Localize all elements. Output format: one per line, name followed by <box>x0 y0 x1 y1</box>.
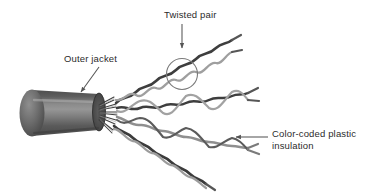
label-twisted-pair: Twisted pair <box>164 9 217 21</box>
twisted-pair-3 <box>117 117 259 154</box>
outer-jacket <box>20 90 106 137</box>
jacket-left-cap <box>20 90 45 137</box>
label-outer-jacket: Outer jacket <box>64 53 117 65</box>
pair-4-tips <box>206 184 215 190</box>
twisted-pair-2 <box>117 88 259 114</box>
label-color-coded-line1: Color-coded plastic <box>272 128 356 139</box>
label-color-coded-line2: insulation <box>272 140 314 151</box>
pair-1-strand-light <box>116 52 232 100</box>
label-color-coded-insulation: Color-coded plastic insulation <box>272 128 384 151</box>
pair-2-tips <box>248 88 259 101</box>
outer-jacket-arrow <box>81 67 99 92</box>
utp-cable-diagram <box>0 0 389 192</box>
pair-3-tips <box>248 144 259 154</box>
pair-1-tips <box>232 35 242 52</box>
twisted-pair-1 <box>116 35 242 103</box>
